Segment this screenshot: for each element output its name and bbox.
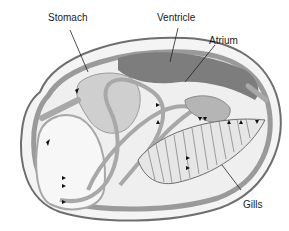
gills-label: Gills <box>243 199 262 210</box>
ventricle-label: Ventricle <box>157 12 195 23</box>
atrium-label: Atrium <box>209 35 238 46</box>
clam-anatomy-diagram <box>0 0 289 231</box>
stomach-label: Stomach <box>48 12 87 23</box>
